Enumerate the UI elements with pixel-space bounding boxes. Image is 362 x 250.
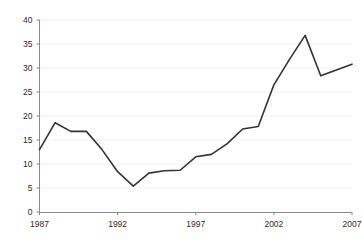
x-tick-label: 1987 <box>25 219 55 229</box>
line-chart: 0510152025303540 19871992199720022007 <box>0 0 362 250</box>
y-tick-label: 30 <box>17 63 33 73</box>
y-tick-label: 15 <box>17 135 33 145</box>
y-tick-label: 0 <box>17 207 33 217</box>
y-tick-label: 25 <box>17 87 33 97</box>
y-tick-label: 40 <box>17 15 33 25</box>
y-tick-label: 20 <box>17 111 33 121</box>
gridlines-group <box>40 20 353 188</box>
y-tick-label: 5 <box>17 183 33 193</box>
x-tick-label: 2007 <box>337 219 362 229</box>
x-tick-label: 2002 <box>259 219 289 229</box>
axis-ticks-group <box>37 20 353 215</box>
y-tick-label: 35 <box>17 39 33 49</box>
chart-plot-area <box>0 0 362 250</box>
x-tick-label: 1992 <box>103 219 133 229</box>
x-tick-label: 1997 <box>181 219 211 229</box>
data-series-line <box>40 35 353 186</box>
y-tick-label: 10 <box>17 159 33 169</box>
